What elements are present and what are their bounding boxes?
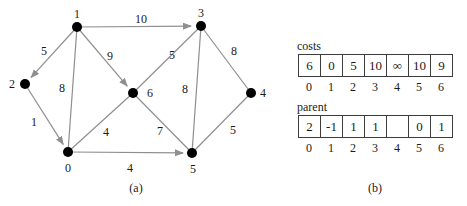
- caption-b: (b): [353, 181, 397, 196]
- edge-0-6: [68, 93, 133, 152]
- parent-index: 6: [430, 141, 452, 156]
- parent-index: 0: [298, 141, 320, 156]
- parent-index: 4: [386, 141, 408, 156]
- parent-table: 2 -1 1 1 0 1: [298, 115, 453, 138]
- figure: 5 10 9 8 5 8 1 4 7 8 4 5 1 3 2 6 4 0 5 c…: [0, 0, 467, 206]
- costs-cell: 6: [298, 54, 321, 77]
- edge-1-2-arrow: [31, 27, 77, 77]
- costs-cell: 0: [320, 54, 343, 77]
- parent-index: 1: [320, 141, 342, 156]
- graph-canvas: 5 10 9 8 5 8 1 4 7 8 4 5 1 3 2 6 4 0 5: [0, 0, 290, 206]
- edge-1-6-arrow: [77, 27, 127, 86]
- node-6-label: 6: [147, 86, 153, 100]
- parent-index-row: 0 1 2 3 4 5 6: [298, 141, 452, 156]
- edge-2-0-weight: 1: [31, 115, 37, 129]
- edge-1-2-weight: 5: [41, 44, 47, 58]
- edge-4-5: [192, 93, 251, 153]
- node-2-label: 2: [9, 77, 15, 91]
- edge-1-0: [68, 27, 77, 152]
- costs-index: 6: [430, 80, 452, 95]
- costs-index: 5: [408, 80, 430, 95]
- parent-index: 5: [408, 141, 430, 156]
- costs-cell: ∞: [386, 54, 409, 77]
- caption-a: (a): [114, 181, 158, 196]
- edge-0-5-arrow: [68, 152, 183, 153]
- edge-6-5-weight: 7: [157, 124, 163, 138]
- edge-6-5: [133, 93, 192, 153]
- parent-cell: [386, 115, 409, 138]
- node-1: [72, 22, 82, 32]
- edge-1-3-arrow: [77, 26, 191, 27]
- node-3-label: 3: [198, 6, 204, 20]
- node-0: [63, 147, 73, 157]
- costs-table-label: costs: [297, 39, 321, 54]
- node-3: [196, 21, 206, 31]
- costs-table: 6 0 5 10 ∞ 10 9: [298, 54, 453, 77]
- costs-index: 3: [364, 80, 386, 95]
- node-5-label: 5: [190, 162, 196, 176]
- parent-cell: 1: [364, 115, 387, 138]
- edge-3-4-weight: 8: [231, 44, 237, 58]
- edge-1-6-weight: 9: [107, 49, 113, 63]
- edge-3-4: [201, 26, 251, 93]
- edge-1-3-weight: 10: [135, 12, 147, 26]
- node-2: [20, 79, 30, 89]
- edge-0-5-weight: 4: [127, 161, 133, 175]
- parent-index: 3: [364, 141, 386, 156]
- costs-index: 0: [298, 80, 320, 95]
- parent-table-label: parent: [297, 100, 327, 115]
- parent-cell: 1: [342, 115, 365, 138]
- edge-4-5-weight: 5: [230, 123, 236, 137]
- edge-6-3-weight: 5: [169, 48, 175, 62]
- costs-index: 1: [320, 80, 342, 95]
- parent-cell: 2: [298, 115, 321, 138]
- parent-cell: 0: [408, 115, 431, 138]
- parent-cell: -1: [320, 115, 343, 138]
- costs-index-row: 0 1 2 3 4 5 6: [298, 80, 452, 95]
- edge-1-0-weight: 8: [59, 81, 65, 95]
- edge-6-3: [133, 26, 201, 93]
- costs-cell: 10: [364, 54, 387, 77]
- costs-cell: 9: [430, 54, 453, 77]
- edge-3-5-weight: 8: [182, 82, 188, 96]
- costs-index: 2: [342, 80, 364, 95]
- node-6: [128, 88, 138, 98]
- parent-cell: 1: [430, 115, 453, 138]
- parent-index: 2: [342, 141, 364, 156]
- node-4-label: 4: [260, 86, 266, 100]
- costs-cell: 10: [408, 54, 431, 77]
- costs-index: 4: [386, 80, 408, 95]
- node-5: [187, 148, 197, 158]
- node-1-label: 1: [74, 7, 80, 21]
- costs-cell: 5: [342, 54, 365, 77]
- node-4: [246, 88, 256, 98]
- edge-3-5: [192, 26, 201, 153]
- node-0-label: 0: [65, 161, 71, 175]
- edge-0-6-weight: 4: [103, 125, 109, 139]
